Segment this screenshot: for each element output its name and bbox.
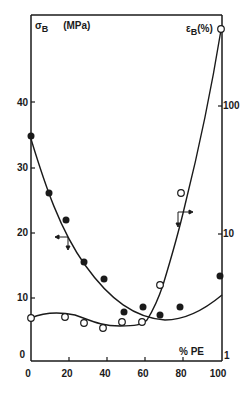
x-tick: 80 xyxy=(169,368,193,379)
epsilon-unit: (%) xyxy=(197,23,213,34)
y-left-tick: 10 xyxy=(10,292,28,303)
y-left-tick: 20 xyxy=(10,227,28,238)
y-right-tick: 1 xyxy=(224,350,230,361)
epsilon-curve xyxy=(31,30,221,326)
sigma-curve xyxy=(31,139,222,320)
sigma-subscript: B xyxy=(42,24,49,34)
sigma-axis-indicator-arrow xyxy=(55,235,70,250)
y-left-title: σB (MPa) xyxy=(35,20,90,34)
y-left-tick: 0 xyxy=(7,349,25,360)
x-tick: 100 xyxy=(206,368,230,379)
y-left-tick: 40 xyxy=(10,97,28,108)
x-axis-title: % PE xyxy=(179,346,204,357)
epsilon-markers xyxy=(28,26,225,332)
x-tick: 0 xyxy=(16,368,40,379)
y-left-tick: 30 xyxy=(10,162,28,173)
chart-canvas xyxy=(0,0,249,396)
y-right-tick: 10 xyxy=(223,228,234,239)
sigma-unit: (MPa) xyxy=(63,20,90,31)
y-right-title: εB(%) xyxy=(186,23,213,37)
y-right-tick: 100 xyxy=(223,100,240,111)
axis-ticks xyxy=(31,102,222,361)
sigma-markers xyxy=(28,133,224,319)
plot-frame xyxy=(31,15,222,361)
epsilon-axis-indicator-arrow xyxy=(176,210,193,227)
x-tick: 20 xyxy=(55,368,79,379)
sigma-symbol: σ xyxy=(35,20,42,31)
x-tick: 40 xyxy=(93,368,117,379)
x-tick: 60 xyxy=(131,368,155,379)
